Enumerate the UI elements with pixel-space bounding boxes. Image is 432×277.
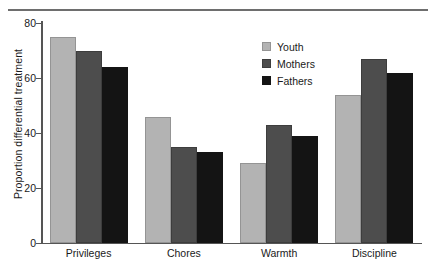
bar-warmth-youth[interactable] — [240, 163, 266, 243]
bars-layer: PrivilegesChoresWarmthDiscipline — [41, 0, 422, 243]
bar-privileges-youth[interactable] — [50, 37, 76, 243]
bar-chores-fathers[interactable] — [197, 152, 223, 243]
legend-label-youth: Youth — [277, 41, 303, 53]
legend-swatch-icon-youth — [262, 42, 271, 51]
bar-chores-mothers[interactable] — [171, 147, 197, 243]
bar-chart-figure: Proportion differential treatment 0 20 4… — [0, 0, 432, 277]
bar-discipline-mothers[interactable] — [361, 59, 387, 243]
bar-privileges-mothers[interactable] — [76, 51, 102, 244]
bar-group-chores: Chores — [136, 0, 231, 243]
legend-item-mothers[interactable]: Mothers — [262, 56, 315, 71]
bar-warmth-mothers[interactable] — [266, 125, 292, 243]
legend-swatch-icon-fathers — [262, 76, 271, 85]
legend: Youth Mothers Fathers — [262, 39, 315, 90]
legend-item-youth[interactable]: Youth — [262, 39, 315, 54]
bar-discipline-youth[interactable] — [335, 95, 361, 244]
y-tick-label-80: 80 — [2, 17, 36, 29]
y-tick-label-40: 40 — [2, 127, 36, 139]
x-category-label-discipline: Discipline — [314, 247, 432, 259]
y-tick-label-60: 60 — [2, 72, 36, 84]
bar-group-warmth: Warmth — [232, 0, 327, 243]
bar-chores-youth[interactable] — [145, 117, 171, 244]
bar-discipline-fathers[interactable] — [387, 73, 413, 244]
y-tick-label-20: 20 — [2, 182, 36, 194]
y-axis-tick-labels: 0 20 40 60 80 — [0, 0, 36, 277]
bar-warmth-fathers[interactable] — [292, 136, 318, 243]
legend-swatch-icon-mothers — [262, 59, 271, 68]
legend-item-fathers[interactable]: Fathers — [262, 73, 315, 88]
bar-group-privileges: Privileges — [41, 0, 136, 243]
bar-privileges-fathers[interactable] — [102, 67, 128, 243]
legend-label-mothers: Mothers — [277, 58, 315, 70]
legend-label-fathers: Fathers — [277, 75, 313, 87]
bar-group-discipline: Discipline — [327, 0, 422, 243]
